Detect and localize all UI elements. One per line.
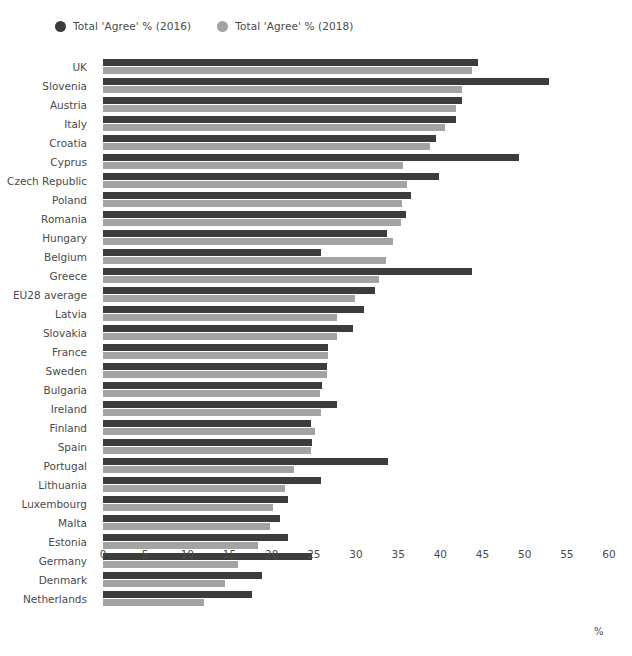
bar-group xyxy=(103,495,609,514)
bar-chart: UKSloveniaAustriaItalyCroatiaCyprusCzech… xyxy=(0,50,632,610)
bar-2018 xyxy=(103,447,311,454)
y-axis-tick-label: Latvia xyxy=(0,305,95,324)
x-axis-tick-label: 20 xyxy=(265,548,278,560)
bar-2018 xyxy=(103,314,337,321)
bar-group xyxy=(103,457,609,476)
bar-2018 xyxy=(103,599,204,606)
x-axis: 051015202530354045505560 xyxy=(103,548,609,578)
bar-2016 xyxy=(103,325,353,332)
y-axis-tick-label: Romania xyxy=(0,210,95,229)
y-axis-tick-label: Ireland xyxy=(0,400,95,419)
y-axis-tick-label: UK xyxy=(0,58,95,77)
bar-2018 xyxy=(103,67,472,74)
y-axis-tick-label: Hungary xyxy=(0,229,95,248)
legend-entry-2018: Total 'Agree' % (2018) xyxy=(217,20,353,32)
x-axis-tick-label: 10 xyxy=(181,548,194,560)
x-axis-tick-label: 45 xyxy=(476,548,489,560)
bar-2018 xyxy=(103,580,225,587)
bar-2016 xyxy=(103,192,411,199)
y-axis-tick-label: France xyxy=(0,343,95,362)
y-axis-tick-label: Malta xyxy=(0,514,95,533)
bar-2016 xyxy=(103,78,549,85)
bar-2016 xyxy=(103,591,252,598)
bar-2018 xyxy=(103,238,393,245)
x-axis-tick-label: 0 xyxy=(100,548,107,560)
bar-group xyxy=(103,286,609,305)
bar-group xyxy=(103,210,609,229)
bar-2018 xyxy=(103,409,321,416)
bar-2018 xyxy=(103,162,403,169)
bar-2018 xyxy=(103,105,456,112)
x-axis-tick-label: 25 xyxy=(307,548,320,560)
bar-2018 xyxy=(103,371,327,378)
bar-2016 xyxy=(103,534,288,541)
bar-2016 xyxy=(103,439,312,446)
bar-2018 xyxy=(103,428,315,435)
bar-group xyxy=(103,438,609,457)
bar-2018 xyxy=(103,333,337,340)
bar-2018 xyxy=(103,143,430,150)
bar-2016 xyxy=(103,344,328,351)
bar-2018 xyxy=(103,86,462,93)
y-axis-tick-label: Croatia xyxy=(0,134,95,153)
bar-group xyxy=(103,134,609,153)
bar-2016 xyxy=(103,287,375,294)
bar-2016 xyxy=(103,420,311,427)
y-axis-tick-label: Poland xyxy=(0,191,95,210)
bar-group xyxy=(103,514,609,533)
bar-2016 xyxy=(103,59,478,66)
bar-group xyxy=(103,590,609,609)
y-axis-tick-label: Luxembourg xyxy=(0,495,95,514)
x-axis-tick-label: 5 xyxy=(142,548,149,560)
y-axis-tick-label: Bulgaria xyxy=(0,381,95,400)
x-axis-tick-label: 15 xyxy=(223,548,236,560)
bar-group xyxy=(103,248,609,267)
bar-group xyxy=(103,381,609,400)
bar-group xyxy=(103,77,609,96)
bar-2016 xyxy=(103,249,321,256)
y-axis-tick-label: Austria xyxy=(0,96,95,115)
bar-2018 xyxy=(103,295,355,302)
bar-2018 xyxy=(103,276,379,283)
bar-group xyxy=(103,153,609,172)
bar-2016 xyxy=(103,154,519,161)
y-axis-tick-label: Slovakia xyxy=(0,324,95,343)
bar-2016 xyxy=(103,173,439,180)
bar-group xyxy=(103,343,609,362)
bar-2016 xyxy=(103,135,436,142)
bar-group xyxy=(103,191,609,210)
y-axis-tick-label: Netherlands xyxy=(0,590,95,609)
bar-group xyxy=(103,267,609,286)
bar-2016 xyxy=(103,477,321,484)
y-axis-tick-label: Sweden xyxy=(0,362,95,381)
bar-2016 xyxy=(103,268,472,275)
y-axis-tick-label: Denmark xyxy=(0,571,95,590)
y-axis-tick-label: Germany xyxy=(0,552,95,571)
x-axis-tick-label: 60 xyxy=(602,548,615,560)
bar-2018 xyxy=(103,504,273,511)
x-axis-tick-label: 35 xyxy=(391,548,404,560)
bar-group xyxy=(103,229,609,248)
bar-group xyxy=(103,476,609,495)
legend-entry-2016: Total 'Agree' % (2016) xyxy=(55,20,191,32)
y-axis-tick-label: EU28 average xyxy=(0,286,95,305)
y-axis-tick-label: Italy xyxy=(0,115,95,134)
y-axis-tick-label: Lithuania xyxy=(0,476,95,495)
bar-2018 xyxy=(103,219,401,226)
bar-2018 xyxy=(103,181,407,188)
bar-group xyxy=(103,362,609,381)
bar-group xyxy=(103,400,609,419)
bar-2018 xyxy=(103,523,270,530)
bar-group xyxy=(103,115,609,134)
bar-group xyxy=(103,58,609,77)
x-axis-tick-label: 55 xyxy=(560,548,573,560)
chart-legend: Total 'Agree' % (2016) Total 'Agree' % (… xyxy=(55,16,354,36)
bar-2016 xyxy=(103,515,280,522)
bar-2018 xyxy=(103,200,402,207)
bar-2018 xyxy=(103,257,386,264)
bar-2018 xyxy=(103,124,445,131)
bar-2016 xyxy=(103,401,337,408)
bar-group xyxy=(103,324,609,343)
y-axis-tick-label: Estonia xyxy=(0,533,95,552)
x-axis-tick-label: 30 xyxy=(349,548,362,560)
